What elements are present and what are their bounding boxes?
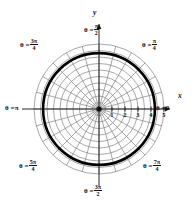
fraction-5pi-4: 5π4 xyxy=(29,159,37,172)
x-tick-label-2: 2 xyxy=(123,111,126,118)
fraction-pi-4: π4 xyxy=(152,38,156,51)
fraction-3pi-2-numerator: 3π xyxy=(94,184,102,190)
fraction-pi-2-numerator: π xyxy=(94,23,98,29)
x-axis-label: x xyxy=(178,91,182,100)
angle-label-5pi-over-4-theta: θ = xyxy=(19,162,29,170)
angle-label-pi-over-4: θ =π4 xyxy=(142,38,157,51)
fraction-3pi-4-denominator: 4 xyxy=(30,44,38,51)
fraction-pi-4-numerator: π xyxy=(152,38,156,44)
fraction-7pi-4-numerator: 7π xyxy=(153,159,161,165)
fraction-pi-2-denominator: 2 xyxy=(94,29,98,36)
fraction-7pi-4: 7π4 xyxy=(153,159,161,172)
x-tick-label-5: 5 xyxy=(162,111,165,118)
angle-label-0-theta: θ = xyxy=(156,104,166,112)
fraction-3pi-2-denominator: 2 xyxy=(94,190,102,197)
x-tick-label-3: 3 xyxy=(136,111,139,118)
angle-label-3pi-over-4: θ =3π4 xyxy=(20,38,38,51)
pole-point xyxy=(96,106,101,111)
angle-label-3pi-over-2: θ =3π2 xyxy=(84,184,102,197)
angle-label-5pi-over-4: θ =5π4 xyxy=(19,159,37,172)
fraction-5pi-4-denominator: 4 xyxy=(29,165,37,172)
fraction-3pi-2: 3π2 xyxy=(94,184,102,197)
angle-label-0: θ =0 xyxy=(156,105,169,112)
angle-label-3pi-over-2-theta: θ = xyxy=(84,187,94,195)
angle-label-7pi-over-4-theta: θ = xyxy=(143,162,153,170)
angle-label-pi-over-2-theta: θ = xyxy=(84,26,94,34)
fraction-3pi-4: 3π4 xyxy=(30,38,38,51)
fraction-pi-2: π2 xyxy=(94,23,98,36)
fraction-3pi-4-numerator: 3π xyxy=(30,38,38,44)
x-tick-label-4: 4 xyxy=(149,111,152,118)
angle-label-pi-over-2: θ =π2 xyxy=(84,23,99,36)
angle-label-3pi-over-4-theta: θ = xyxy=(20,41,30,49)
fraction-5pi-4-numerator: 5π xyxy=(29,159,37,165)
fraction-pi-4-denominator: 4 xyxy=(152,44,156,51)
angle-label-pi-over-4-theta: θ = xyxy=(142,41,152,49)
fraction-7pi-4-denominator: 4 xyxy=(153,165,161,172)
angle-label-7pi-over-4: θ =7π4 xyxy=(143,159,161,172)
x-tick-label-1: 1 xyxy=(110,111,113,118)
y-axis-label: y xyxy=(93,8,96,17)
angle-label-pi-theta: θ = xyxy=(5,104,15,112)
angle-label-pi: θ =π xyxy=(5,105,19,112)
angle-label-pi-value: π xyxy=(15,104,19,112)
angle-label-0-value: 0 xyxy=(166,104,170,112)
